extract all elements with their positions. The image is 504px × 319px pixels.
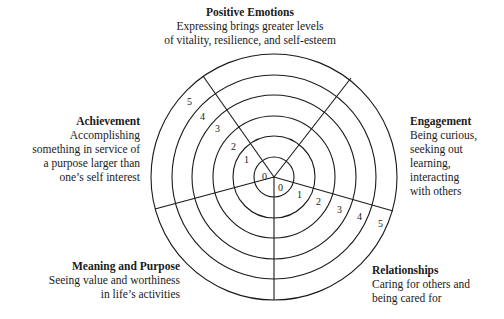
svg-text:2: 2 (316, 196, 321, 207)
svg-text:0: 0 (278, 182, 283, 193)
label-achievement: Achievement Accomplishing something in s… (0, 114, 140, 184)
svg-text:4: 4 (357, 211, 362, 222)
label-relationships: Relationships Caring for others and bein… (372, 263, 504, 305)
label-engagement: Engagement Being curious, seeking out le… (410, 114, 504, 198)
svg-text:5: 5 (187, 96, 192, 107)
scale-right: 0 1 2 3 4 5 (278, 182, 383, 229)
svg-text:3: 3 (337, 204, 342, 215)
spoke-upper-left (203, 76, 274, 177)
title-engagement: Engagement (410, 114, 504, 128)
title-relationships: Relationships (372, 263, 504, 277)
label-meaning-and-purpose: Meaning and Purpose Seeing value and wor… (0, 259, 180, 301)
svg-text:1: 1 (244, 154, 249, 165)
svg-text:1: 1 (297, 189, 302, 200)
title-achievement: Achievement (0, 114, 140, 128)
spoke-lower-right (274, 177, 393, 211)
label-positive-emotions: Positive Emotions Expressing brings grea… (150, 5, 350, 47)
scale-left: 0 1 2 3 4 5 (187, 96, 267, 182)
svg-text:4: 4 (200, 111, 205, 122)
svg-text:2: 2 (231, 141, 236, 152)
svg-text:0: 0 (262, 171, 267, 182)
title-meaning-and-purpose: Meaning and Purpose (0, 259, 180, 273)
svg-text:5: 5 (378, 218, 383, 229)
svg-text:3: 3 (215, 123, 220, 134)
title-positive-emotions: Positive Emotions (150, 5, 350, 19)
